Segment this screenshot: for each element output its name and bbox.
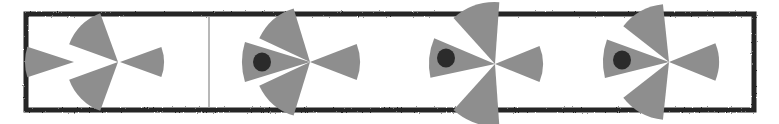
figure-root	[0, 0, 779, 124]
fish-eye-icon	[613, 51, 631, 70]
fish-eye-icon	[437, 49, 455, 68]
figure-canvas	[0, 0, 779, 124]
fish-eye-icon	[253, 53, 271, 72]
